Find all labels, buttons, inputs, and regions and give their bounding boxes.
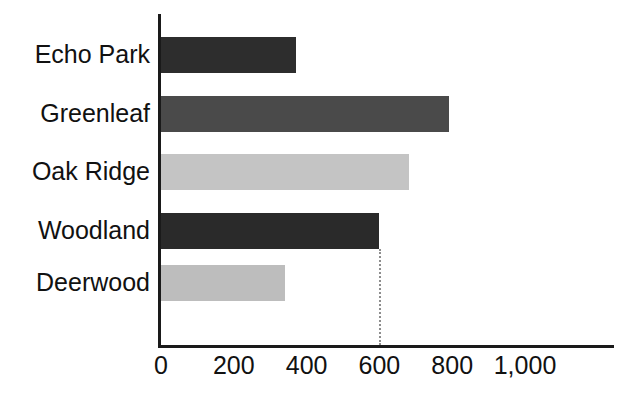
category-label-text: Woodland — [38, 218, 150, 243]
bar-deerwood[interactable] — [161, 265, 285, 301]
bar-woodland[interactable] — [161, 213, 379, 249]
bar-greenleaf[interactable] — [161, 96, 449, 132]
plot-area: Echo Park Greenleaf Oak Ridge Woodland D… — [0, 0, 621, 403]
category-label-text: Greenleaf — [40, 101, 150, 126]
category-label-text: Echo Park — [35, 42, 150, 67]
bar-chart-figure: Echo Park Greenleaf Oak Ridge Woodland D… — [0, 0, 621, 403]
bar-oak-ridge[interactable] — [161, 154, 409, 190]
category-label-text: Deerwood — [36, 270, 150, 295]
x-axis-spine — [158, 345, 614, 348]
x-tick-label-5: 1,000 — [480, 353, 570, 378]
category-label-text: Oak Ridge — [32, 159, 150, 184]
reference-line-600 — [379, 249, 381, 345]
bar-echo-park[interactable] — [161, 37, 296, 73]
